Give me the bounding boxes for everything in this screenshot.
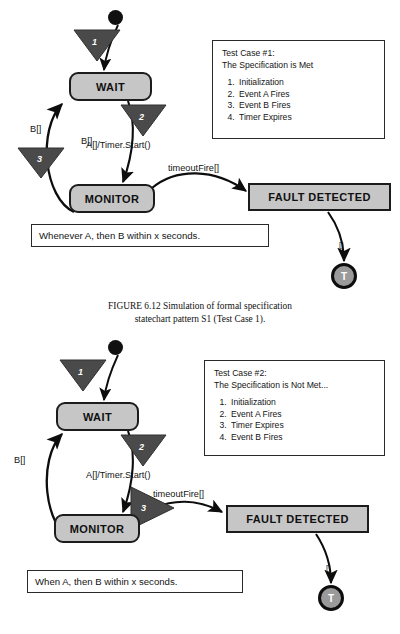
d1-requirement-box: Whenever A, then B within x seconds. <box>31 224 269 247</box>
d2-note-title: Test Case #2: <box>214 368 375 380</box>
d1-initial-state-dot <box>108 10 123 25</box>
d1-note-item: Event B Fires <box>237 100 375 112</box>
d1-test-case-note: Test Case #1: The Specification is Met I… <box>212 40 385 139</box>
d1-state-fault-label: FAULT DETECTED <box>268 191 371 203</box>
d2-step-1-label: 1 <box>78 367 83 377</box>
d2-state-monitor[interactable]: MONITOR <box>54 514 140 543</box>
d2-state-wait[interactable]: WAIT <box>56 402 139 431</box>
d2-terminal-label: T <box>328 593 334 604</box>
d2-note-item: Event B Fires <box>229 432 375 444</box>
d1-note-list: Initialization Event A Fires Event B Fir… <box>222 77 375 123</box>
d1-terminal-state[interactable]: T <box>331 263 357 289</box>
d1-requirement-text: Whenever A, then B within x seconds. <box>39 230 200 241</box>
d2-state-fault-detected[interactable]: FAULT DETECTED <box>226 505 369 533</box>
d1-state-wait-label: WAIT <box>96 81 125 93</box>
d2-initial-state-dot <box>108 340 123 355</box>
d2-transition-label-b: B[] <box>14 455 25 465</box>
d1-note-item: Event A Fires <box>237 89 375 101</box>
d2-requirement-text: When A, then B within x seconds. <box>35 576 177 587</box>
d1-note-item: Timer Expires <box>237 112 375 124</box>
d2-state-monitor-label: MONITOR <box>70 523 125 535</box>
d2-monitor-to-fault <box>155 502 222 512</box>
d1-state-monitor[interactable]: MONITOR <box>69 184 155 213</box>
d2-state-fault-label: FAULT DETECTED <box>246 513 349 525</box>
figure-caption: FIGURE 6.12 Simulation of formal specifi… <box>0 300 400 325</box>
d2-terminal-state[interactable]: T <box>318 585 344 611</box>
d2-transition-label-a-timer: A[]/Timer.Start() <box>86 470 151 480</box>
d1-monitor-to-fault <box>152 173 246 191</box>
d1-transition-label-a-timer: A[]/Timer.Start() <box>86 140 151 150</box>
figure-page: 1 2 3 WAIT MONITOR FAULT DETECTED T B[] … <box>0 0 400 634</box>
d1-state-wait[interactable]: WAIT <box>69 72 152 101</box>
d2-test-case-note: Test Case #2: The Specification is Not M… <box>204 360 385 456</box>
d2-fault-to-terminal <box>316 534 331 583</box>
d1-terminal-label: T <box>341 271 347 282</box>
d1-step-2-label: 2 <box>139 112 144 122</box>
d2-step-2-label: 2 <box>139 442 144 452</box>
d1-step-3-label: 3 <box>37 154 42 164</box>
d2-step-3-label: 3 <box>141 503 146 513</box>
d2-note-list: Initialization Event A Fires Timer Expir… <box>214 397 375 443</box>
figure-caption-line-1: FIGURE 6.12 Simulation of formal specifi… <box>0 300 400 313</box>
d2-note-item: Initialization <box>229 397 375 409</box>
d1-note-title: Test Case #1: <box>222 48 375 60</box>
d2-start-transition <box>104 355 118 400</box>
d1-step-1-label: 1 <box>92 37 97 47</box>
d2-state-wait-label: WAIT <box>83 411 112 423</box>
d1-state-monitor-label: MONITOR <box>85 193 140 205</box>
d2-transition-label-timeout: timeoutFire[] <box>153 489 204 499</box>
d1-note-subtitle: The Specification is Met <box>222 60 375 72</box>
d1-transition-label-fault-exit: [] <box>339 240 343 249</box>
d1-transition-label-b-left: B[] <box>30 124 41 134</box>
d2-note-item: Event A Fires <box>229 409 375 421</box>
d2-transition-label-fault-exit: [] <box>326 563 330 572</box>
d2-note-item: Timer Expires <box>229 420 375 432</box>
d1-note-item: Initialization <box>237 77 375 89</box>
d2-note-subtitle: The Specification is Not Met... <box>214 380 375 392</box>
d1-fault-to-terminal <box>328 212 344 261</box>
figure-caption-line-2: statechart pattern S1 (Test Case 1). <box>0 313 400 326</box>
d1-state-fault-detected[interactable]: FAULT DETECTED <box>248 183 391 211</box>
d1-transition-label-timeout: timeoutFire[] <box>168 163 219 173</box>
d2-requirement-box: When A, then B within x seconds. <box>27 570 243 593</box>
d1-start-transition <box>104 25 118 70</box>
